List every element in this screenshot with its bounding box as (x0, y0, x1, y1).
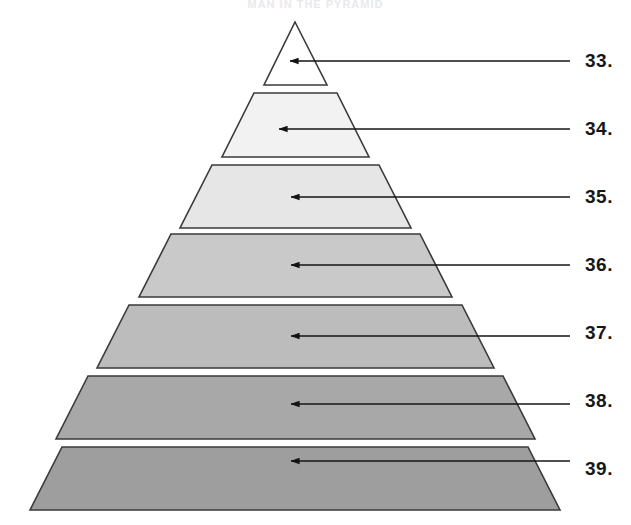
pyramid-tier-7[interactable] (30, 447, 560, 510)
pyramid-tier-6[interactable] (56, 376, 535, 439)
callout-label-34: 34. (585, 118, 613, 140)
callout-label-37: 37. (585, 322, 613, 344)
callout-label-36: 36. (585, 254, 613, 276)
callout-label-33: 33. (585, 50, 613, 72)
pyramid-tiers (30, 22, 560, 510)
callout-label-38: 38. (585, 390, 613, 412)
pyramid-tier-1[interactable] (264, 22, 327, 85)
callout-label-35: 35. (585, 186, 613, 208)
callout-label-39: 39. (585, 458, 613, 480)
pyramid-tier-2[interactable] (222, 93, 369, 157)
pyramid-diagram (0, 0, 631, 525)
